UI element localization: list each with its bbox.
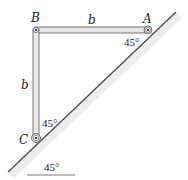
label-point-B: B: [31, 12, 40, 24]
pin-B-icon: [34, 28, 39, 33]
bar-BC: [33, 29, 39, 139]
label-angle-incline: 45°: [44, 162, 59, 173]
label-angle-A: 45°: [124, 37, 139, 48]
label-point-A: A: [143, 13, 152, 25]
label-length-BC: b: [21, 79, 29, 91]
pin-A-icon: [144, 26, 152, 34]
label-point-C: C: [19, 134, 28, 146]
label-angle-C: 45°: [42, 118, 57, 129]
bar-BA: [35, 27, 150, 33]
label-length-BA: b: [88, 14, 96, 26]
pin-C-icon: [32, 134, 41, 143]
